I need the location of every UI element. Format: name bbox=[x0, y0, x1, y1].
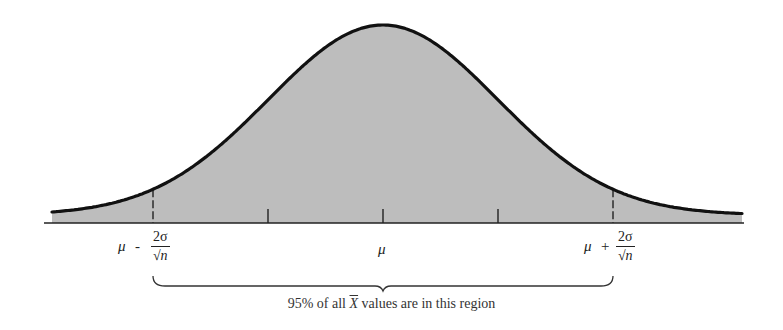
caption-pre: 95% of all bbox=[288, 296, 350, 311]
left-minus-sign: - bbox=[135, 238, 140, 255]
left-numerator: 2σ bbox=[151, 229, 170, 247]
right-plus-sign: + bbox=[601, 238, 609, 255]
left-denominator: √n bbox=[151, 247, 170, 264]
right-fraction: 2σ √n bbox=[616, 229, 635, 264]
left-fraction: 2σ √n bbox=[151, 229, 170, 264]
shaded-area-under-curve bbox=[52, 25, 742, 223]
left-mu-label: μ bbox=[118, 238, 126, 255]
sqrt-icon: √ bbox=[153, 248, 161, 263]
caption-xbar: X bbox=[350, 296, 359, 311]
sqrt-icon: √ bbox=[618, 248, 626, 263]
normal-curve-figure bbox=[0, 0, 783, 330]
right-numerator: 2σ bbox=[616, 229, 635, 247]
right-mu-label: μ bbox=[584, 238, 592, 255]
center-mu-label: μ bbox=[378, 241, 386, 258]
right-den-var: n bbox=[626, 248, 633, 263]
right-denominator: √n bbox=[616, 247, 635, 264]
region-brace bbox=[153, 276, 613, 291]
left-den-var: n bbox=[161, 248, 168, 263]
caption-post: values are in this region bbox=[358, 296, 495, 311]
region-caption: 95% of all X values are in this region bbox=[0, 296, 783, 312]
